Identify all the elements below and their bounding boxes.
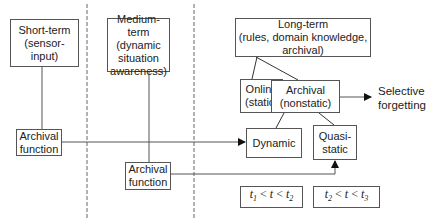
archival-nonstatic-title: Archival (286, 84, 325, 97)
dynamic-label: Dynamic (253, 137, 296, 150)
medium-term-line3: situation (118, 52, 159, 65)
edge-archival-to-quasistatic (319, 113, 334, 125)
archival-function-2-box: Archival function (125, 162, 171, 190)
interval-2-expression: t2 < t < t3 (325, 188, 369, 205)
dynamic-box: Dynamic (246, 128, 302, 158)
selective-forgetting-label: Selective forgetting (378, 84, 426, 112)
interval-t1-t2-box: t1 < t < t2 (240, 186, 303, 208)
archival-function-1-line2: function (20, 143, 59, 156)
archival-function-1-line1: Archival (19, 130, 58, 143)
selective-forgetting-line2: forgetting (378, 98, 426, 112)
interval-t2-t3-box: t2 < t < t3 (313, 186, 380, 208)
edge-long-to-online (252, 57, 257, 79)
medium-term-box: Medium-term (dynamic situation awareness… (107, 18, 170, 72)
short-term-box: Short-term (sensor-input) (10, 19, 79, 67)
long-term-title: Long-term (278, 18, 328, 31)
archival-nonstatic-subtitle: (nonstatic) (280, 97, 331, 110)
interval-1-expression: t1 < t < t2 (250, 188, 294, 205)
quasi-static-line1: Quasi- (319, 130, 351, 143)
quasi-static-line2: static (322, 143, 348, 156)
medium-term-title: Medium-term (108, 13, 169, 39)
long-term-subtitle: (rules, domain knowledge, archival) (236, 31, 370, 57)
edge-archival2-to-quasistatic (171, 161, 335, 174)
quasi-static-box: Quasi- static (313, 125, 357, 160)
short-term-subtitle: (sensor-input) (11, 37, 78, 63)
archival-function-1-box: Archival function (16, 129, 62, 156)
selective-forgetting-line1: Selective (378, 84, 426, 98)
medium-term-line4: awareness) (110, 65, 167, 78)
archival-nonstatic-box: Archival (nonstatic) (271, 80, 340, 113)
long-term-box: Long-term (rules, domain knowledge, arch… (235, 18, 371, 57)
archival-function-2-line2: function (129, 176, 168, 189)
edge-archival-to-dynamic (276, 113, 284, 128)
medium-term-line2: (dynamic (116, 39, 161, 52)
archival-function-2-line1: Archival (128, 163, 167, 176)
short-term-title: Short-term (19, 24, 71, 37)
edge-long-to-archival (256, 57, 298, 80)
